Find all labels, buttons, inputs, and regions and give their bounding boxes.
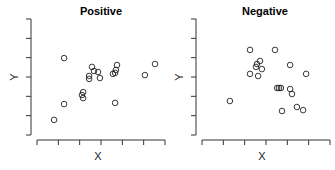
data-point (152, 61, 158, 67)
data-point (227, 98, 233, 104)
x-axis-negative (202, 140, 330, 145)
positive-scatter-panel: Positive X Y (8, 5, 165, 162)
scatter-plots-figure: Positive X Y Negative X Y (0, 0, 335, 170)
data-point (255, 73, 261, 79)
negative-scatter-panel: Negative X Y (173, 5, 330, 162)
data-point (51, 117, 57, 123)
data-point (61, 55, 67, 61)
y-axis-positive (26, 19, 31, 135)
points-positive (51, 55, 158, 122)
data-point (279, 108, 285, 114)
data-point (289, 91, 295, 97)
points-negative (227, 47, 309, 114)
panel-title-positive: Positive (80, 5, 122, 17)
x-axis-label-negative: X (258, 150, 266, 162)
data-point (247, 71, 253, 77)
data-point (294, 104, 300, 110)
panel-title-negative: Negative (242, 5, 288, 17)
data-point (112, 100, 118, 106)
y-axis-label-positive: Y (8, 73, 20, 81)
data-point (95, 69, 101, 75)
x-axis-positive (37, 140, 165, 145)
data-point (97, 75, 103, 81)
data-point (303, 71, 309, 77)
data-point (247, 47, 253, 53)
data-point (272, 47, 278, 53)
data-point (300, 107, 306, 113)
data-point (287, 62, 293, 68)
x-axis-label-positive: X (94, 150, 102, 162)
y-axis-negative (191, 19, 196, 135)
data-point (61, 101, 67, 107)
y-axis-label-negative: Y (173, 73, 185, 81)
data-point (259, 66, 265, 72)
data-point (142, 72, 148, 78)
